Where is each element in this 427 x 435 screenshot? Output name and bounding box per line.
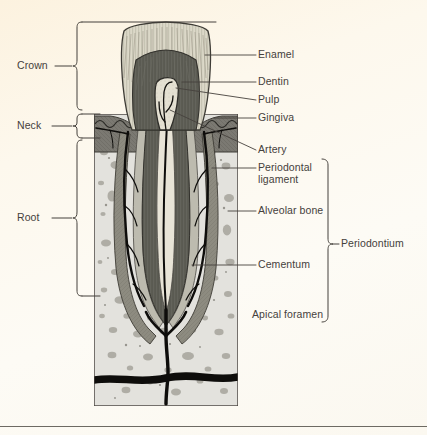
label-periodontal-ligament: Periodontal ligament	[258, 162, 312, 185]
label-cementum: Cementum	[258, 259, 310, 271]
label-root: Root	[17, 212, 40, 224]
crown-bracket	[73, 22, 82, 110]
label-apical-foramen: Apical foramen	[252, 309, 323, 321]
tooth-anatomy-figure: Crown Neck Root Enamel Dentin Pulp Gingi…	[0, 0, 427, 435]
label-dentin: Dentin	[258, 76, 289, 88]
label-pulp: Pulp	[258, 94, 279, 106]
tooth-diagram-svg	[0, 0, 427, 435]
label-alveolar-bone: Alveolar bone	[258, 205, 323, 217]
label-crown: Crown	[17, 60, 48, 72]
label-artery: Artery	[258, 144, 286, 156]
label-enamel: Enamel	[258, 49, 294, 61]
label-periodontium: Periodontium	[341, 238, 404, 250]
bottom-divider	[0, 426, 427, 427]
specimen-box	[94, 114, 238, 406]
artery-horizontal-band	[94, 376, 238, 380]
label-neck: Neck	[17, 120, 41, 132]
root-bracket	[73, 140, 82, 296]
tooth-crown	[122, 22, 211, 130]
label-gingiva: Gingiva	[258, 112, 294, 124]
neck-bracket	[73, 114, 82, 138]
periodontium-bracket	[322, 159, 339, 322]
